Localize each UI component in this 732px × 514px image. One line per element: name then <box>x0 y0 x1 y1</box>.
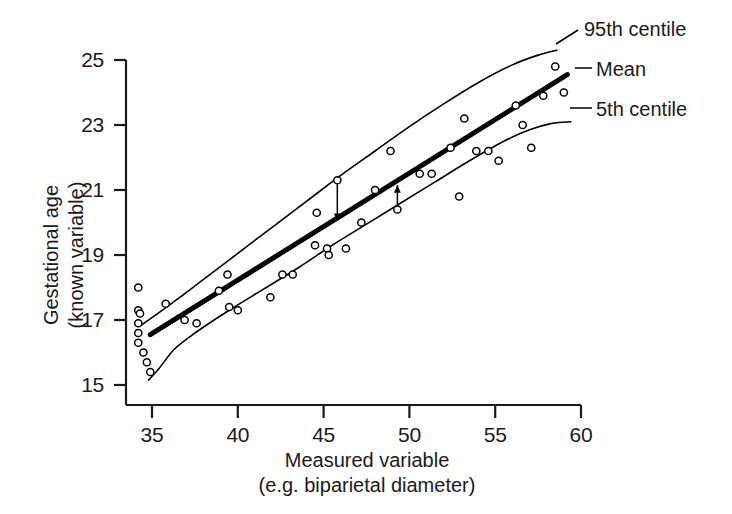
data-point <box>358 219 365 226</box>
data-point <box>140 349 147 356</box>
series-label-mean: Mean <box>596 58 646 81</box>
x-axis-title-line1: Measured variable <box>152 448 582 473</box>
data-point <box>311 242 318 249</box>
data-point <box>394 206 401 213</box>
data-point <box>485 147 492 154</box>
data-point <box>560 89 567 96</box>
data-point <box>540 92 547 99</box>
label-leader-lines <box>556 30 592 108</box>
data-point <box>135 339 142 346</box>
y-axis-title: Gestational age (known variable) <box>39 125 89 385</box>
data-point <box>519 121 526 128</box>
data-point <box>147 368 154 375</box>
data-points <box>135 63 568 376</box>
x-axis-ticks <box>152 405 581 418</box>
y-axis-tick-label: 25 <box>60 48 104 72</box>
leader-line-95th-centile <box>556 30 578 44</box>
curve-mean <box>150 75 567 335</box>
data-point <box>473 147 480 154</box>
x-axis-tick-label: 35 <box>141 423 164 447</box>
x-axis-title-line2: (e.g. biparietal diameter) <box>152 473 582 498</box>
data-point <box>289 271 296 278</box>
data-point <box>447 144 454 151</box>
data-point <box>135 320 142 327</box>
x-axis-tick-label: 40 <box>226 423 249 447</box>
series-label-95th-centile: 95th centile <box>584 18 686 41</box>
series-label-5th-centile: 5th centile <box>596 98 687 121</box>
data-point <box>143 359 150 366</box>
data-point <box>371 186 378 193</box>
curve-95th-centile <box>142 50 557 325</box>
data-point <box>334 177 341 184</box>
data-point <box>193 320 200 327</box>
x-axis-title: Measured variable (e.g. biparietal diame… <box>152 448 582 498</box>
x-axis-tick-label: 45 <box>312 423 335 447</box>
x-axis-tick-label: 60 <box>570 423 593 447</box>
data-point <box>162 300 169 307</box>
data-point <box>528 144 535 151</box>
curve-5th-centile <box>149 122 571 380</box>
deviation-arrow-above-mean <box>334 182 341 221</box>
data-point <box>552 63 559 70</box>
data-point <box>135 329 142 336</box>
axes <box>114 60 581 418</box>
data-point <box>387 147 394 154</box>
data-point <box>224 271 231 278</box>
data-point <box>136 310 143 317</box>
y-axis-title-line1: Gestational age <box>39 125 64 385</box>
data-point <box>461 115 468 122</box>
x-axis-tick-label: 55 <box>484 423 507 447</box>
x-axis-tick-label: 50 <box>398 423 421 447</box>
data-point <box>512 102 519 109</box>
data-point <box>428 170 435 177</box>
y-axis-title-line2: (known variable) <box>64 125 89 385</box>
data-point <box>342 245 349 252</box>
data-point <box>181 316 188 323</box>
chart-figure: 151719212325 354045505560 Gestational ag… <box>0 0 732 514</box>
data-point <box>135 284 142 291</box>
data-point <box>215 287 222 294</box>
data-point <box>313 209 320 216</box>
data-point <box>226 303 233 310</box>
data-point <box>267 294 274 301</box>
data-point <box>416 170 423 177</box>
y-axis-ticks <box>114 60 126 385</box>
data-point <box>325 251 332 258</box>
data-point <box>234 307 241 314</box>
data-point <box>456 193 463 200</box>
fitted-curves <box>142 50 571 380</box>
data-point <box>495 157 502 164</box>
data-point <box>279 271 286 278</box>
arrow-head <box>394 185 401 193</box>
